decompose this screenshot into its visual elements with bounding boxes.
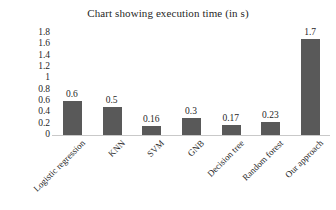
y-tick-label: 0.4 <box>0 108 50 118</box>
bar-value-label: 0.23 <box>248 110 292 120</box>
x-category-label: Random forest <box>241 138 286 183</box>
bar <box>301 39 320 135</box>
y-tick-label: 1.8 <box>0 28 50 38</box>
bar-value-label: 0.16 <box>129 114 173 124</box>
bar <box>63 101 82 135</box>
bar-group: 0.3 <box>173 33 209 135</box>
bar-group: 0.6 <box>54 33 90 135</box>
y-tick-label: 1.4 <box>0 51 50 61</box>
y-tick-label: 1.2 <box>0 62 50 72</box>
bar-group: 0.5 <box>94 33 130 135</box>
bar-value-label: 0.3 <box>169 106 213 116</box>
bar-group: 0.16 <box>133 33 169 135</box>
bar-chart: Chart showing execution time (in s) 1.81… <box>0 0 336 210</box>
x-category-label: KNN <box>106 138 127 159</box>
y-tick-label: 0.8 <box>0 85 50 95</box>
x-category-label: GNB <box>186 138 207 159</box>
bar-value-label: 1.7 <box>288 27 332 37</box>
bar <box>182 118 201 135</box>
x-axis: Logistic regressionKNNSVMGNBDecision tre… <box>52 136 330 210</box>
y-tick-label: 0.2 <box>0 119 50 129</box>
y-tick-label: 0.6 <box>0 96 50 106</box>
y-tick-label: 1.6 <box>0 40 50 50</box>
bar <box>222 125 241 135</box>
y-tick-label: 1 <box>0 74 50 84</box>
bar-group: 0.23 <box>252 33 288 135</box>
bar-group: 0.17 <box>213 33 249 135</box>
bar <box>103 107 122 135</box>
x-category-label: Decision tree <box>205 138 246 179</box>
bar <box>142 126 161 135</box>
bar-value-label: 0.5 <box>90 95 134 105</box>
bar <box>261 122 280 135</box>
x-category-label: Our approach <box>283 138 325 180</box>
chart-title: Chart showing execution time (in s) <box>0 7 336 20</box>
bar-value-label: 0.17 <box>209 113 253 123</box>
plot-area: 0.60.50.160.30.170.231.7 <box>52 33 330 135</box>
y-tick-label: 0 <box>0 130 50 140</box>
bar-group: 1.7 <box>292 33 328 135</box>
x-category-label: Logistic regression <box>31 138 87 194</box>
x-category-label: SVM <box>145 138 166 159</box>
bar-value-label: 0.6 <box>50 89 94 99</box>
y-axis: 1.81.61.41.210.80.60.40.20 <box>0 33 50 135</box>
